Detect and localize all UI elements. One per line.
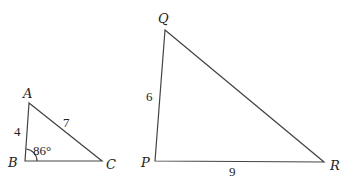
triangle-diagram: A B C 4 7 86° Q P R 6 9 bbox=[0, 0, 348, 188]
side-ac-length: 7 bbox=[63, 115, 70, 130]
angle-b-measure: 86° bbox=[33, 143, 51, 158]
side-pq-length: 6 bbox=[146, 89, 153, 104]
triangle-pqr-edges bbox=[155, 30, 324, 162]
triangle-abc: A B C 4 7 86° bbox=[7, 86, 116, 172]
vertex-c-label: C bbox=[106, 157, 116, 172]
triangle-pqr: Q P R 6 9 bbox=[140, 11, 340, 179]
vertex-b-label: B bbox=[7, 155, 18, 170]
vertex-q-label: Q bbox=[158, 11, 169, 26]
vertex-p-label: P bbox=[140, 155, 150, 170]
side-pr-length: 9 bbox=[229, 164, 236, 179]
vertex-a-label: A bbox=[22, 86, 32, 101]
side-ab-length: 4 bbox=[14, 124, 21, 139]
vertex-r-label: R bbox=[329, 158, 340, 173]
